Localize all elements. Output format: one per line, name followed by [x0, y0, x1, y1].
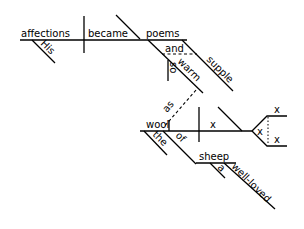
- word-poems: poems: [146, 28, 180, 39]
- word-well-loved: well-loved: [230, 161, 274, 205]
- word-as: as: [160, 99, 176, 115]
- placeholder-verb: x: [210, 119, 216, 130]
- placeholder-lower: x: [274, 134, 280, 145]
- placeholder-middle: x: [257, 126, 263, 137]
- sentence-diagram: affections His became poems and so warm …: [0, 0, 304, 229]
- sub-complement-slant: [218, 107, 242, 131]
- word-supple: supple: [205, 54, 236, 85]
- word-of: of: [174, 130, 189, 145]
- placeholder-upper: x: [274, 104, 280, 115]
- word-became: became: [88, 28, 128, 39]
- word-sheep: sheep: [199, 151, 229, 162]
- word-and: and: [165, 43, 184, 54]
